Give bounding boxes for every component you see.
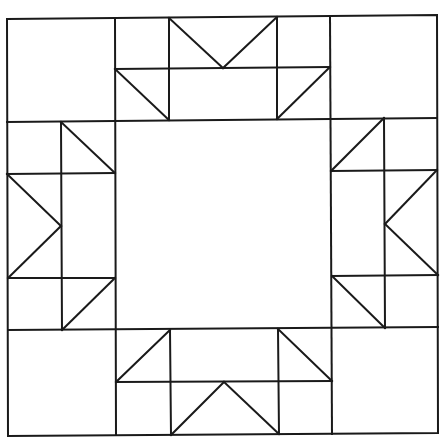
- outer-border-square: [7, 15, 438, 436]
- right-triangle-diagonal-2: [385, 170, 437, 224]
- outer-border: [7, 15, 438, 436]
- right-triangle-diagonal-4: [332, 276, 385, 328]
- left-triangle-diagonal-4: [62, 278, 115, 330]
- left-flying-geese-band: [7, 122, 115, 330]
- main-grid-lines: [7, 16, 438, 435]
- right-band-line-2: [331, 170, 437, 171]
- top-triangle-diagonal-4: [277, 67, 330, 119]
- col-line-2: [330, 16, 332, 434]
- top-triangle-diagonal-2: [223, 17, 277, 68]
- right-triangle-diagonal-1: [331, 118, 384, 171]
- right-triangle-diagonal-3: [385, 224, 438, 275]
- bottom-flying-geese-band: [116, 329, 332, 435]
- row-line-2: [8, 327, 438, 330]
- left-triangle-diagonal-3: [61, 122, 115, 173]
- left-triangle-diagonal-2: [8, 226, 61, 278]
- row-line-1: [7, 118, 437, 122]
- bottom-triangle-diagonal-2: [278, 329, 332, 381]
- top-triangle-diagonal-1: [169, 18, 223, 68]
- right-flying-geese-band: [331, 118, 438, 328]
- bottom-triangle-diagonal-4: [224, 382, 279, 434]
- quilt-diagram-canvas: Quilt block pattern: [0, 0, 446, 443]
- left-triangle-diagonal-1: [7, 174, 61, 226]
- bottom-triangle-diagonal-3: [171, 382, 224, 435]
- top-triangle-diagonal-3: [115, 69, 169, 120]
- col-line-1: [115, 19, 116, 435]
- right-band-line-3: [332, 275, 438, 276]
- bottom-triangle-diagonal-1: [116, 330, 170, 382]
- top-flying-geese-band: [115, 17, 330, 120]
- left-band-line-2: [7, 173, 115, 174]
- quilt-block-svg: [0, 0, 446, 443]
